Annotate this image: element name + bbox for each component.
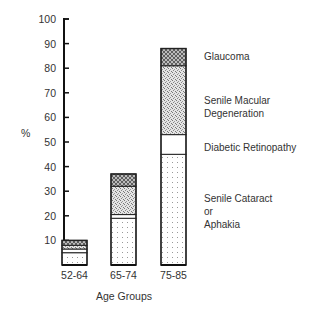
bar-52-64 [62,240,87,265]
bar-segment [111,186,136,214]
bar-75-85 [161,49,186,265]
bar-segment [111,174,136,186]
x-tick-label: 52-64 [61,269,88,281]
bar-segment [111,218,136,265]
x-axis-label: Age Groups [96,290,152,302]
legend-glaucoma: Glaucoma [204,51,250,62]
legend-cataract-line2: or [204,206,214,217]
y-tick-label: 70 [44,87,56,99]
y-axis-label: % [21,127,30,139]
y-tick-label: 10 [44,234,56,246]
bar-65-74 [111,174,136,265]
y-tick-label: 60 [44,111,56,123]
legend-cataract-line1: Senile Cataract [204,193,273,204]
y-tick-label: 40 [44,161,56,173]
y-tick-label: 100 [38,13,56,25]
y-axis: 102030405060708090100 [38,13,69,266]
bar-segment [62,240,87,245]
y-tick-label: 50 [44,136,56,148]
legend-smd-line1: Senile Macular [204,95,271,106]
legend: Glaucoma Senile Macular Degeneration Dia… [204,51,296,230]
x-tick-labels: 52-6465-7475-85 [61,269,187,281]
y-tick-label: 80 [44,62,56,74]
bar-segment [111,215,136,219]
bar-segment [161,154,186,265]
bar-segment [62,245,87,249]
legend-diabetic-retinopathy: Diabetic Retinopathy [204,142,296,153]
bar-segment [161,49,186,66]
bar-segment [161,66,186,135]
bar-segment [62,253,87,265]
bars [62,49,186,265]
x-tick-label: 75-85 [160,269,187,281]
legend-cataract-line3: Aphakia [204,219,241,230]
legend-smd-line2: Degeneration [204,108,264,119]
y-tick-label: 20 [44,210,56,222]
chart: 102030405060708090100 % 52-6465-7475-85 … [0,0,318,319]
x-tick-label: 65-74 [110,269,137,281]
y-tick-label: 30 [44,185,56,197]
y-tick-label: 90 [44,38,56,50]
bar-segment [62,249,87,253]
bar-segment [161,135,186,155]
